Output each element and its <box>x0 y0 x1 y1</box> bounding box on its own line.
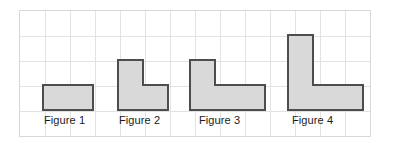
figure-1-label: Figure 1 <box>44 115 85 126</box>
figure-1-shape <box>43 85 93 110</box>
figure-shapes-layer <box>0 0 397 149</box>
figure-3-label: Figure 3 <box>199 115 240 126</box>
figure-4-shape <box>288 35 363 110</box>
figure-4-label: Figure 4 <box>292 115 333 126</box>
figure-2-shape <box>118 60 168 110</box>
figure-3-shape <box>190 60 265 110</box>
figure-2-label: Figure 2 <box>119 115 160 126</box>
figure-pattern-image: Figure 1 Figure 2 Figure 3 Figure 4 <box>0 0 397 149</box>
